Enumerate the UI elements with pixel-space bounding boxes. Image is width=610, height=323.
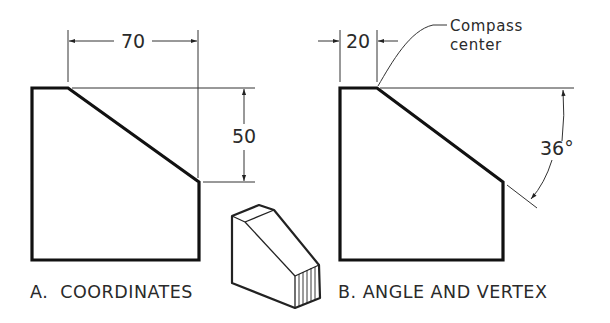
drawing-canvas: 70 50 A. COORDINATES [0,0,610,323]
dimension-50: 50 [72,88,256,182]
angle-36: 36° [380,88,574,208]
figure-b-outline [340,88,503,260]
dimension-50-label: 50 [232,125,256,147]
compass-note-line1: Compass [450,17,523,35]
angle-36-label: 36° [540,137,574,159]
dimension-20: 20 [318,30,398,82]
figure-a: 70 50 A. COORDINATES [30,30,256,302]
figure-a-outline [32,88,199,260]
dimension-70: 70 [68,30,198,178]
compass-center-note: Compass center [378,17,523,86]
isometric-block [232,205,320,308]
dimension-20-label: 20 [346,30,370,52]
figure-b: 20 Compass center 36° B. ANGLE AND VERTE… [318,17,574,302]
compass-note-line2: center [450,36,502,54]
figure-a-caption: A. COORDINATES [30,282,193,302]
figure-b-caption: B. ANGLE AND VERTEX [338,282,547,302]
dimension-70-label: 70 [121,30,145,52]
